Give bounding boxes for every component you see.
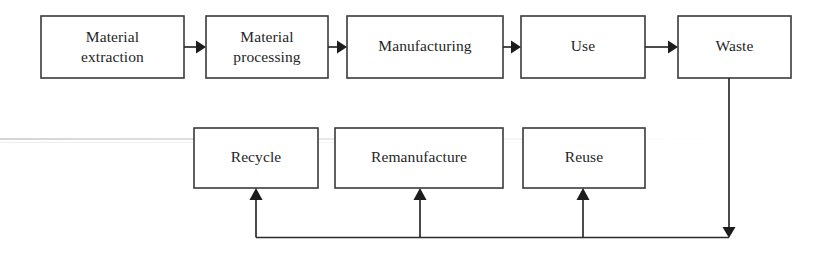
node-label-material-processing-line2: processing	[233, 48, 300, 65]
node-label-reuse: Reuse	[565, 148, 603, 165]
node-material-extraction[interactable]: Material extraction	[41, 16, 184, 78]
diagram-canvas: Material extraction Material processing …	[0, 0, 819, 255]
arrowhead-right	[196, 41, 206, 54]
arrowhead-right	[668, 41, 678, 54]
feedback-waste-down	[723, 78, 736, 238]
arrow-bus-to-remanufacture	[414, 188, 427, 238]
flowchart-diagram: Material extraction Material processing …	[0, 0, 819, 255]
arrowhead-up	[250, 188, 263, 200]
node-material-processing[interactable]: Material processing	[206, 16, 328, 78]
node-use[interactable]: Use	[521, 16, 645, 78]
node-label-manufacturing: Manufacturing	[378, 37, 472, 54]
node-label-material-extraction-line2: extraction	[81, 48, 144, 65]
arrowhead-right	[511, 41, 521, 54]
arrowhead-down	[723, 227, 736, 238]
arrow-processing-to-manufacturing	[328, 41, 347, 54]
arrowhead-up	[577, 188, 590, 200]
arrow-manufacturing-to-use	[503, 41, 521, 54]
arrow-extraction-to-processing	[184, 41, 206, 54]
node-label-waste: Waste	[716, 37, 754, 54]
node-reuse[interactable]: Reuse	[523, 128, 645, 188]
node-label-recycle: Recycle	[231, 148, 282, 165]
node-label-material-extraction-line1: Material	[86, 28, 139, 45]
arrow-bus-to-recycle	[250, 188, 263, 238]
arrow-bus-to-reuse	[577, 188, 590, 238]
arrow-use-to-waste	[645, 41, 678, 54]
arrowhead-right	[337, 41, 347, 54]
node-remanufacture[interactable]: Remanufacture	[335, 128, 503, 188]
node-label-material-processing-line1: Material	[240, 28, 293, 45]
node-manufacturing[interactable]: Manufacturing	[347, 16, 503, 78]
arrowhead-up	[414, 188, 427, 200]
node-label-use: Use	[571, 37, 595, 54]
node-recycle[interactable]: Recycle	[194, 128, 318, 188]
node-label-remanufacture: Remanufacture	[371, 148, 467, 165]
node-waste[interactable]: Waste	[678, 16, 791, 78]
